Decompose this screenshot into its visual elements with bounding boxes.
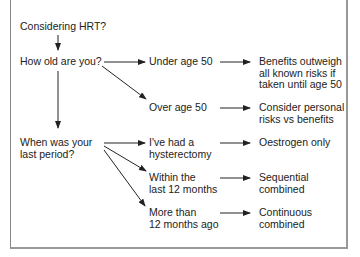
option-within-12-months: Within the last 12 months — [149, 172, 217, 195]
outcome-benefits-outweigh: Benefits outweigh all known risks if tak… — [259, 56, 342, 91]
question-last-period: When was your last period? — [20, 137, 92, 160]
outcome-oestrogen-only: Oestrogen only — [259, 137, 330, 149]
option-under-50: Under age 50 — [149, 56, 213, 68]
option-more-than-12-months: More than 12 months ago — [149, 207, 218, 230]
option-hysterectomy: I've had a hysterectomy — [149, 137, 211, 160]
question-age: How old are you? — [20, 56, 102, 68]
outcome-consider-risks: Consider personal risks vs benefits — [259, 102, 344, 125]
start-node: Considering HRT? — [20, 21, 106, 33]
arrow-age-over50 — [102, 66, 146, 99]
outcome-continuous-combined: Continuous combined — [259, 207, 312, 230]
option-over-50: Over age 50 — [149, 102, 207, 114]
outcome-sequential-combined: Sequential combined — [259, 172, 309, 195]
